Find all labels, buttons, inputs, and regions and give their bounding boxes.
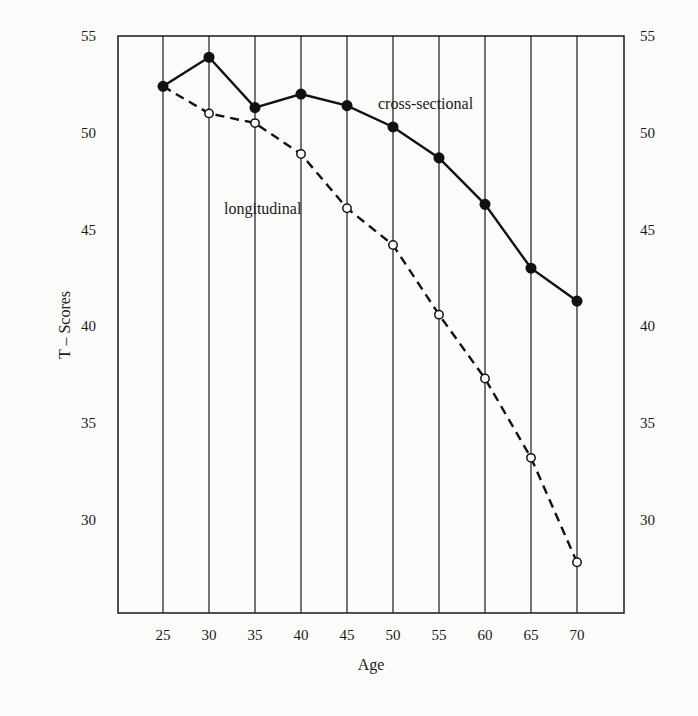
- x-axis-ticks: 25303540455055606570: [156, 627, 585, 643]
- cross-sectional-point: [250, 103, 260, 113]
- x-axis-label: Age: [358, 656, 385, 674]
- x-tick-label: 65: [524, 627, 539, 643]
- y-tick-label: 40: [81, 318, 96, 334]
- cross-sectional-point: [480, 200, 490, 210]
- longitudinal-label: longitudinal: [224, 200, 302, 218]
- y-axis-label: T – Scores: [56, 291, 73, 359]
- y-tick-label-right: 30: [640, 512, 655, 528]
- plot-frame: [118, 36, 624, 613]
- line-chart: 303540455055 303540455055 25303540455055…: [0, 0, 698, 716]
- longitudinal-line: [163, 86, 577, 562]
- cross-sectional-point: [388, 122, 398, 132]
- cross-sectional-point: [158, 82, 168, 92]
- x-tick-label: 30: [202, 627, 217, 643]
- longitudinal-point: [481, 374, 489, 382]
- y-tick-label-right: 45: [640, 222, 655, 238]
- x-tick-label: 35: [248, 627, 263, 643]
- x-tick-label: 45: [340, 627, 355, 643]
- longitudinal-point: [389, 241, 397, 249]
- longitudinal-point: [343, 204, 351, 212]
- vertical-gridlines: [163, 36, 577, 613]
- x-tick-label: 50: [386, 627, 401, 643]
- x-tick-label: 70: [570, 627, 585, 643]
- longitudinal-point: [527, 454, 535, 462]
- longitudinal-point: [251, 119, 259, 127]
- cross-sectional-point: [526, 263, 536, 273]
- y-tick-label: 50: [81, 125, 96, 141]
- cross-sectional-line: [163, 57, 577, 301]
- y-tick-label-right: 40: [640, 318, 655, 334]
- longitudinal-point: [573, 558, 581, 566]
- y-tick-label: 55: [81, 28, 96, 44]
- cross-sectional-label: cross-sectional: [378, 95, 474, 112]
- longitudinal-point: [435, 310, 443, 318]
- cross-sectional-point: [434, 153, 444, 163]
- cross-sectional-point: [572, 296, 582, 306]
- cross-sectional-point: [342, 101, 352, 111]
- y-axis-left-ticks: 303540455055: [81, 28, 96, 528]
- x-tick-label: 60: [478, 627, 493, 643]
- longitudinal-point: [297, 150, 305, 158]
- y-tick-label-right: 55: [640, 28, 655, 44]
- y-tick-label: 35: [81, 415, 96, 431]
- y-tick-label: 30: [81, 512, 96, 528]
- y-axis-right-ticks: 303540455055: [640, 28, 655, 528]
- cross-sectional-point: [204, 52, 214, 62]
- longitudinal-point: [205, 109, 213, 117]
- x-tick-label: 25: [156, 627, 171, 643]
- series-lines: [158, 52, 582, 566]
- y-tick-label: 45: [81, 222, 96, 238]
- y-tick-label-right: 50: [640, 125, 655, 141]
- x-tick-label: 40: [294, 627, 309, 643]
- y-tick-label-right: 35: [640, 415, 655, 431]
- x-tick-label: 55: [432, 627, 447, 643]
- cross-sectional-point: [296, 89, 306, 99]
